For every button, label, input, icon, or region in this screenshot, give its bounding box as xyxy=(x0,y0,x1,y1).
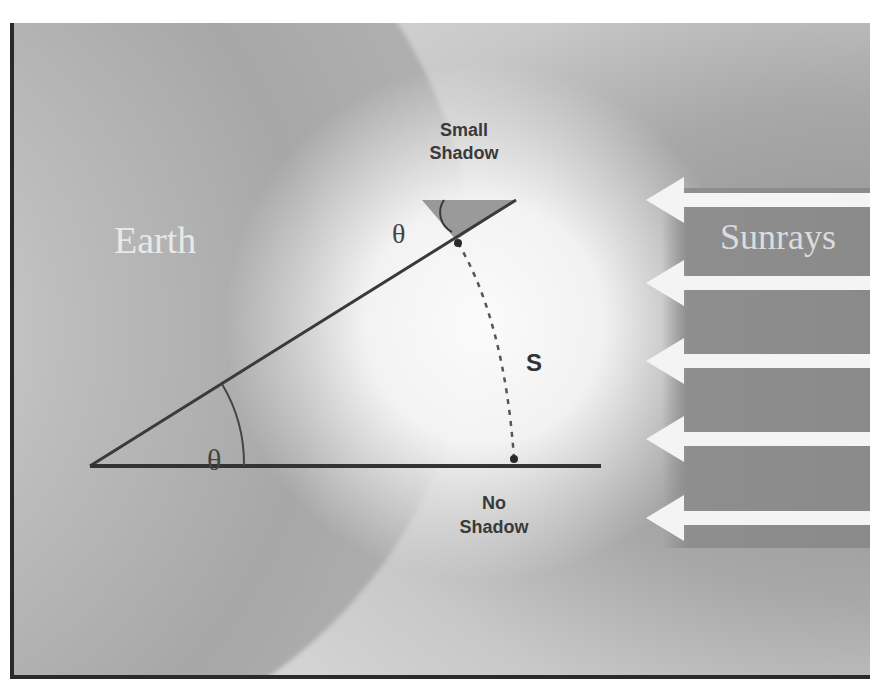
small-shadow-label-line2: Shadow xyxy=(414,142,514,165)
no-shadow-label-line2: Shadow xyxy=(444,515,544,539)
central-angle-arc xyxy=(222,384,244,466)
well-base-dot xyxy=(510,455,518,463)
no-shadow-label: No Shadow xyxy=(444,491,544,539)
shadow-angle-label: θ xyxy=(392,218,405,250)
small-shadow-label: Small Shadow xyxy=(414,119,514,165)
no-shadow-label-line1: No xyxy=(444,491,544,515)
gnomon-base-dot xyxy=(454,239,462,247)
sunray-arrow-icon xyxy=(646,260,870,306)
sunray-arrow-icon xyxy=(646,338,870,384)
sunray-arrow-icon xyxy=(646,495,870,541)
central-angle-label: θ xyxy=(207,443,221,477)
arc-length-label: S xyxy=(526,349,542,377)
sunray-arrow-icon xyxy=(646,416,870,462)
diagram-frame: Earth Sunrays Small Shadow No Shadow S θ… xyxy=(10,23,870,679)
sunrays-label: Sunrays xyxy=(720,216,836,258)
small-shadow-label-line1: Small xyxy=(414,119,514,142)
small-shadow-triangle xyxy=(422,200,516,240)
earth-label: Earth xyxy=(114,218,196,262)
arc-length-dashed xyxy=(458,243,514,458)
